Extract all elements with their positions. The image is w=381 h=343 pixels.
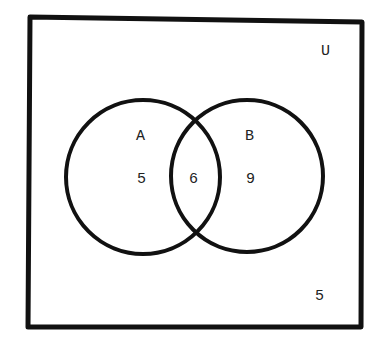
set-a-label: A (136, 128, 145, 145)
set-a-only-count: 5 (137, 171, 146, 188)
set-b-only-count: 9 (246, 171, 255, 188)
universe-label: U (321, 43, 330, 60)
outside-count: 5 (315, 288, 324, 305)
set-b-label: B (245, 128, 254, 145)
venn-diagram: U A B 5 6 9 5 (0, 0, 381, 343)
intersection-count: 6 (189, 171, 198, 188)
